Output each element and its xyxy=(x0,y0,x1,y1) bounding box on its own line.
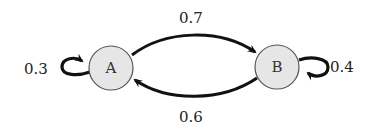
node-a: A xyxy=(89,46,133,90)
markov-diagram: 0.7 0.6 0.3 0.4 A B xyxy=(0,0,384,133)
edge-a-to-b xyxy=(132,35,255,55)
edge-a-self-loop xyxy=(62,58,90,74)
edge-b-self-loop xyxy=(299,58,328,76)
edge-label-b-self: 0.4 xyxy=(330,58,354,76)
node-b: B xyxy=(255,45,299,89)
node-a-label: A xyxy=(105,59,117,77)
edge-label-a-self: 0.3 xyxy=(24,60,48,78)
edge-label-b-to-a: 0.6 xyxy=(179,108,203,126)
edge-label-a-to-b: 0.7 xyxy=(179,9,203,27)
node-b-label: B xyxy=(271,58,282,76)
edge-b-to-a xyxy=(135,78,257,96)
